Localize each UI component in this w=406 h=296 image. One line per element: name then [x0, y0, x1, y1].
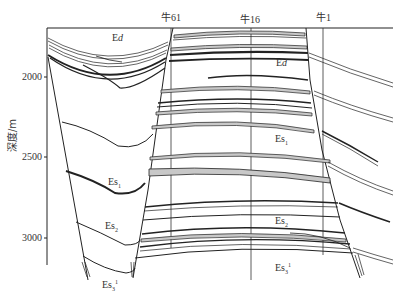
well-label-niu16: 牛16: [240, 15, 260, 25]
formation-label-es2-center: Es2: [275, 216, 288, 228]
well-label-niu61: 牛61: [161, 13, 181, 23]
formation-label-ed-left: Ed: [112, 33, 123, 43]
formation-label-es3-center: Es31: [275, 262, 291, 275]
depth-tick-label-2500: 2500: [22, 152, 42, 162]
formation-label-es1-left: Es1: [108, 177, 121, 189]
depth-tick-label-2000: 2000: [22, 72, 42, 82]
left-graben: [48, 28, 173, 280]
cross-section-canvas: [0, 0, 406, 296]
depth-tick-label-3000: 3000: [22, 233, 42, 243]
depth-axis-label: 深度/m: [4, 119, 19, 152]
formation-label-es3-left: Es31: [102, 279, 118, 292]
formation-label-es1-center: Es1: [275, 134, 288, 146]
formation-label-es2-left: Es2: [105, 221, 118, 233]
formation-label-ed-center: Ed: [276, 58, 287, 68]
well-label-niu1: 牛1: [316, 13, 331, 23]
